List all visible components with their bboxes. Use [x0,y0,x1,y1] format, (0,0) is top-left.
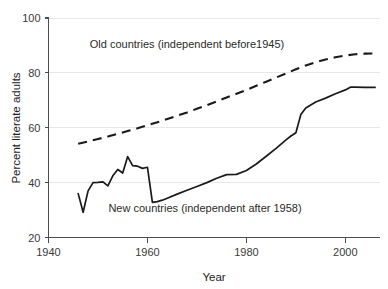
y-tick-label-20: 20 [28,232,40,244]
literacy-line-chart: 20406080100 1940196019802000 Old countri… [0,0,388,289]
x-tick-label-1960: 1960 [135,246,159,258]
x-tick-label-1940: 1940 [36,246,60,258]
x-tick-group: 1940196019802000 [36,238,357,258]
y-tick-label-80: 80 [28,67,40,79]
series-line-new-countries [78,87,375,212]
series-line-old-countries [78,53,375,143]
y-tick-group: 20406080100 [22,12,48,244]
y-tick-label-60: 60 [28,122,40,134]
chart-canvas: 20406080100 1940196019802000 Old countri… [0,0,388,289]
x-axis-title: Year [202,271,225,283]
y-tick-label-40: 40 [28,177,40,189]
x-tick-label-2000: 2000 [333,246,357,258]
series-annotation-old-countries: Old countries (independent before1945) [90,38,284,50]
x-tick-label-1980: 1980 [234,246,258,258]
y-axis-title: Percent literate adults [10,72,22,183]
series-annotation-new-countries: New countries (independent after 1958) [108,202,301,214]
series-group [78,53,375,212]
y-tick-label-100: 100 [22,12,40,24]
